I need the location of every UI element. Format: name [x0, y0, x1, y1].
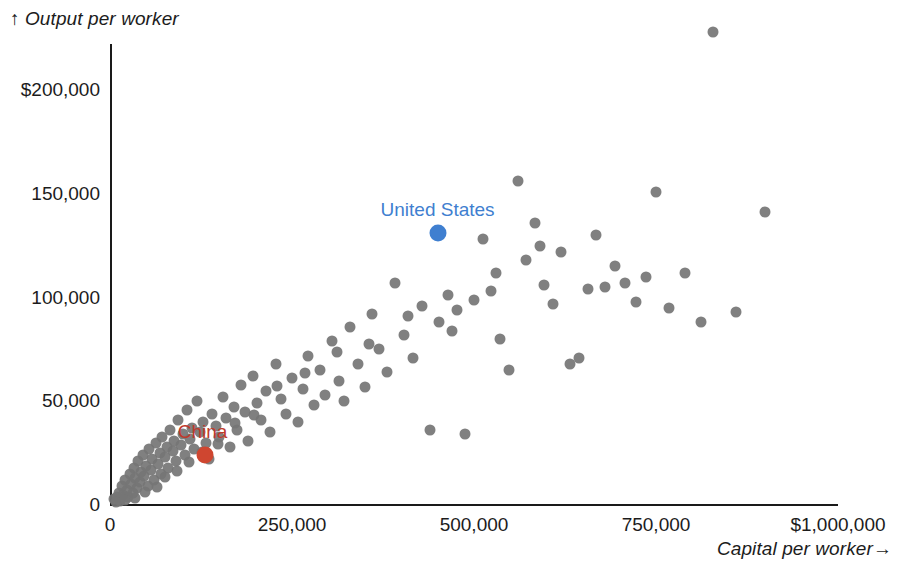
data-point: [272, 380, 283, 391]
data-point: [600, 282, 611, 293]
data-point: [297, 383, 308, 394]
data-point: [145, 464, 156, 475]
y-axis-title: ↑ Output per worker: [10, 8, 179, 30]
data-point: [147, 454, 158, 465]
data-point: [447, 325, 458, 336]
data-point: [287, 373, 298, 384]
data-point: [230, 418, 241, 429]
data-point: [303, 350, 314, 361]
data-point: [565, 358, 576, 369]
x-axis-line: [110, 504, 838, 506]
data-point: [113, 487, 124, 498]
data-point: [129, 462, 140, 473]
data-point: [151, 482, 162, 493]
data-point: [610, 261, 621, 272]
data-point: [256, 414, 267, 425]
data-point: [167, 446, 178, 457]
data-point: [308, 400, 319, 411]
y-tick-label: 0: [0, 494, 100, 516]
data-point: [573, 352, 584, 363]
y-tick-label: 50,000: [0, 390, 100, 412]
data-point: [171, 465, 182, 476]
data-point: [134, 477, 145, 488]
data-point: [451, 304, 462, 315]
data-point: [196, 447, 207, 458]
data-point: [217, 392, 228, 403]
y-tick-label: $200,000: [0, 79, 100, 101]
data-point: [352, 358, 363, 369]
data-point: [189, 443, 200, 454]
data-point: [276, 394, 287, 405]
x-axis-title: Capital per worker→: [717, 538, 892, 560]
data-point: [367, 309, 378, 320]
data-point: [390, 277, 401, 288]
data-point: [120, 475, 131, 486]
data-point: [228, 402, 239, 413]
data-point: [201, 437, 212, 448]
data-point: [127, 487, 138, 498]
data-point: [281, 408, 292, 419]
data-point: [140, 460, 151, 471]
data-point: [163, 462, 174, 473]
x-tick-label: 750,000: [622, 514, 691, 536]
data-point: [538, 280, 549, 291]
data-point: [292, 417, 303, 428]
data-point: [252, 398, 263, 409]
data-point: [731, 307, 742, 318]
data-point: [314, 365, 325, 376]
data-point: [150, 437, 161, 448]
data-point: [243, 435, 254, 446]
data-point: [131, 483, 142, 494]
data-point: [214, 431, 225, 442]
data-point: [239, 406, 250, 417]
data-point: [126, 479, 137, 490]
data-point: [651, 186, 662, 197]
data-point: [265, 427, 276, 438]
data-point: [486, 286, 497, 297]
data-point: [161, 441, 172, 452]
data-point: [707, 26, 718, 37]
data-point: [118, 489, 129, 500]
y-axis-line: [110, 44, 112, 506]
highlight-label-china: China: [178, 421, 228, 443]
data-point: [490, 267, 501, 278]
data-point: [236, 379, 247, 390]
data-point: [232, 425, 243, 436]
data-point: [460, 429, 471, 440]
data-point: [212, 438, 223, 449]
data-point: [137, 450, 148, 461]
y-tick-label: 150,000: [0, 183, 100, 205]
data-point: [221, 412, 232, 423]
data-point: [124, 468, 135, 479]
data-point: [157, 431, 168, 442]
data-point: [760, 207, 771, 218]
data-point: [374, 344, 385, 355]
data-point: [364, 339, 375, 350]
data-point: [139, 470, 150, 481]
data-point: [503, 365, 514, 376]
data-point: [434, 317, 445, 328]
data-point: [680, 267, 691, 278]
data-point: [249, 409, 260, 420]
data-point: [136, 466, 147, 477]
data-point: [204, 454, 215, 465]
x-tick-label: 0: [105, 514, 116, 536]
data-point: [171, 456, 182, 467]
data-point: [169, 435, 180, 446]
data-point: [139, 486, 150, 497]
data-point: [123, 491, 134, 502]
data-point: [198, 417, 209, 428]
data-point: [149, 475, 160, 486]
data-point: [300, 368, 311, 379]
data-point: [332, 347, 343, 358]
data-point: [495, 334, 506, 345]
data-point: [477, 234, 488, 245]
data-point: [179, 450, 190, 461]
data-point: [469, 294, 480, 305]
highlight-label-united-states: United States: [381, 199, 495, 221]
data-point: [359, 381, 370, 392]
data-point: [130, 473, 141, 484]
data-point: [210, 421, 221, 432]
data-point: [270, 358, 281, 369]
highlight-point-united-states: [429, 225, 446, 242]
